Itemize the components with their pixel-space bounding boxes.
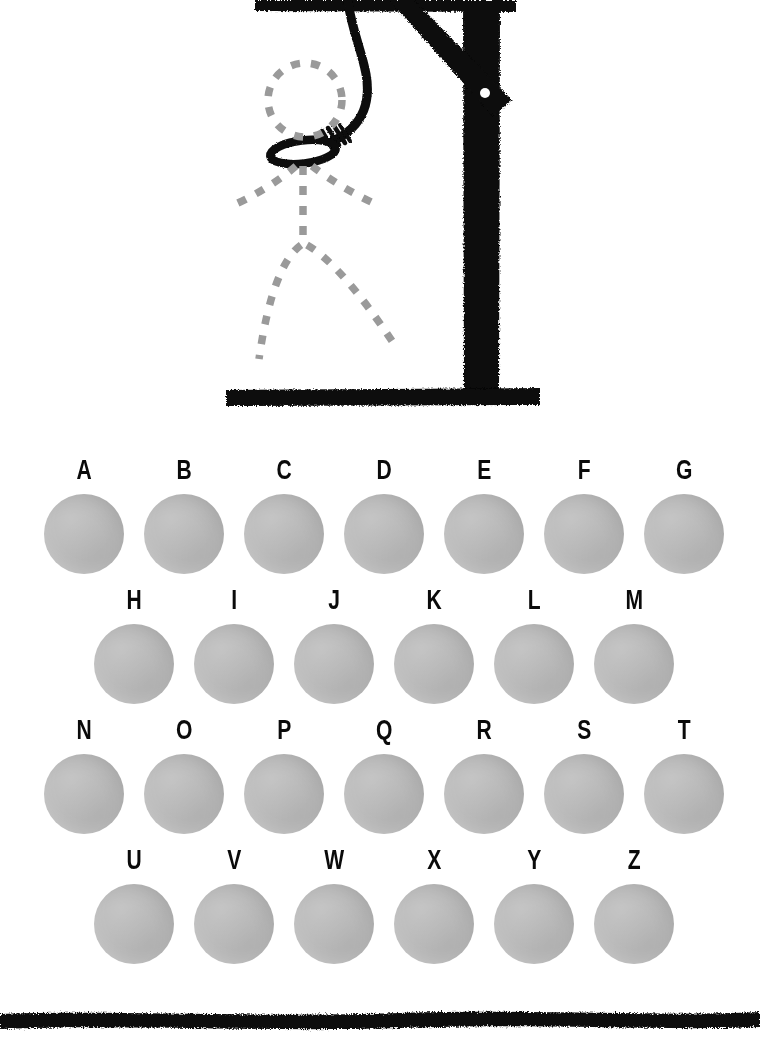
letter-disc-n[interactable]: [44, 754, 124, 834]
letter-key-p[interactable]: P: [242, 715, 326, 834]
letter-disc-d[interactable]: [344, 494, 424, 574]
alphabet-row-1: ABCDEFG: [0, 455, 760, 585]
letter-disc-z[interactable]: [594, 884, 674, 964]
letter-key-b[interactable]: B: [142, 455, 226, 574]
letter-label-e: E: [451, 455, 517, 489]
gallows-area: [0, 0, 760, 425]
letter-label-s: S: [551, 715, 617, 749]
letter-key-x[interactable]: X: [392, 845, 476, 964]
letter-disc-t[interactable]: [644, 754, 724, 834]
letter-disc-g[interactable]: [644, 494, 724, 574]
letter-disc-h[interactable]: [94, 624, 174, 704]
letter-label-a: A: [51, 455, 117, 489]
letter-disc-j[interactable]: [294, 624, 374, 704]
letter-disc-w[interactable]: [294, 884, 374, 964]
letter-disc-r[interactable]: [444, 754, 524, 834]
letter-label-j: J: [301, 585, 367, 619]
letter-label-u: U: [101, 845, 167, 879]
letter-disc-c[interactable]: [244, 494, 324, 574]
bottom-rule-svg: [0, 1000, 760, 1040]
letter-disc-q[interactable]: [344, 754, 424, 834]
letter-label-d: D: [351, 455, 417, 489]
base-beam: [226, 388, 540, 406]
letter-key-k[interactable]: K: [392, 585, 476, 704]
letter-label-g: G: [651, 455, 717, 489]
letter-key-n[interactable]: N: [42, 715, 126, 834]
hangman-gallows-svg: [0, 0, 760, 425]
letter-disc-m[interactable]: [594, 624, 674, 704]
letter-disc-y[interactable]: [494, 884, 574, 964]
letter-key-f[interactable]: F: [542, 455, 626, 574]
letter-key-i[interactable]: I: [192, 585, 276, 704]
letter-label-w: W: [301, 845, 367, 879]
letter-key-u[interactable]: U: [92, 845, 176, 964]
alphabet-row-3: NOPQRST: [0, 715, 760, 845]
letter-key-w[interactable]: W: [292, 845, 376, 964]
letter-key-l[interactable]: L: [492, 585, 576, 704]
letter-label-r: R: [451, 715, 517, 749]
letter-label-m: M: [601, 585, 667, 619]
letter-label-q: Q: [351, 715, 417, 749]
figure-right-arm-outline: [312, 166, 380, 206]
figure-right-leg-outline: [307, 245, 392, 341]
brace-bolt-icon: [480, 88, 490, 98]
letter-label-y: Y: [501, 845, 567, 879]
bottom-rule: [0, 1000, 760, 1040]
letter-label-l: L: [501, 585, 567, 619]
letter-key-v[interactable]: V: [192, 845, 276, 964]
letter-disc-s[interactable]: [544, 754, 624, 834]
letter-label-c: C: [251, 455, 317, 489]
letter-disc-v[interactable]: [194, 884, 274, 964]
letter-disc-e[interactable]: [444, 494, 524, 574]
letter-label-h: H: [101, 585, 167, 619]
alphabet-row-4: UVWXYZ: [0, 845, 760, 975]
letter-key-s[interactable]: S: [542, 715, 626, 834]
letter-label-k: K: [401, 585, 467, 619]
alphabet-board[interactable]: ABCDEFGHIJKLMNOPQRSTUVWXYZ: [0, 455, 760, 985]
letter-key-o[interactable]: O: [142, 715, 226, 834]
letter-key-h[interactable]: H: [92, 585, 176, 704]
letter-key-d[interactable]: D: [342, 455, 426, 574]
letter-disc-o[interactable]: [144, 754, 224, 834]
letter-key-t[interactable]: T: [642, 715, 726, 834]
letter-disc-f[interactable]: [544, 494, 624, 574]
figure-left-arm-outline: [231, 166, 296, 206]
letter-label-z: Z: [601, 845, 667, 879]
letter-disc-u[interactable]: [94, 884, 174, 964]
letter-key-a[interactable]: A: [42, 455, 126, 574]
letter-disc-k[interactable]: [394, 624, 474, 704]
letter-label-n: N: [51, 715, 117, 749]
letter-key-y[interactable]: Y: [492, 845, 576, 964]
alphabet-row-2: HIJKLM: [0, 585, 760, 715]
letter-key-q[interactable]: Q: [342, 715, 426, 834]
letter-key-g[interactable]: G: [642, 455, 726, 574]
letter-label-x: X: [401, 845, 467, 879]
letter-disc-x[interactable]: [394, 884, 474, 964]
letter-label-o: O: [151, 715, 217, 749]
letter-key-z[interactable]: Z: [592, 845, 676, 964]
letter-disc-p[interactable]: [244, 754, 324, 834]
letter-disc-l[interactable]: [494, 624, 574, 704]
letter-disc-i[interactable]: [194, 624, 274, 704]
letter-key-m[interactable]: M: [592, 585, 676, 704]
letter-disc-a[interactable]: [44, 494, 124, 574]
letter-key-e[interactable]: E: [442, 455, 526, 574]
figure-head-outline: [268, 63, 342, 137]
letter-label-f: F: [551, 455, 617, 489]
letter-key-c[interactable]: C: [242, 455, 326, 574]
letter-key-r[interactable]: R: [442, 715, 526, 834]
letter-key-j[interactable]: J: [292, 585, 376, 704]
figure-left-leg-outline: [259, 245, 301, 359]
letter-label-b: B: [151, 455, 217, 489]
letter-label-t: T: [651, 715, 717, 749]
noose-loop: [269, 137, 337, 168]
letter-label-i: I: [201, 585, 267, 619]
letter-label-v: V: [201, 845, 267, 879]
letter-label-p: P: [251, 715, 317, 749]
letter-disc-b[interactable]: [144, 494, 224, 574]
